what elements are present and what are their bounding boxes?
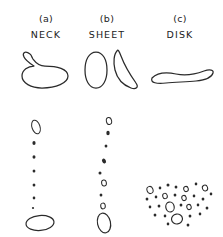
droplet — [175, 186, 178, 189]
column-index-b: (b) — [100, 13, 114, 24]
column-name-neck: NECK — [31, 29, 61, 40]
droplet — [105, 145, 108, 148]
droplet — [33, 155, 36, 158]
droplet — [210, 193, 213, 196]
droplet — [206, 207, 209, 210]
droplet — [158, 205, 161, 208]
droplet — [99, 171, 102, 174]
droplet — [33, 169, 36, 172]
column-name-disk: DISK — [167, 29, 194, 40]
column-index-c: (c) — [173, 13, 187, 24]
droplet — [159, 187, 162, 190]
droplet — [154, 214, 157, 217]
droplet — [197, 204, 200, 207]
column-name-sheet: SHEET — [89, 29, 125, 40]
droplet — [100, 194, 103, 197]
column-index-a: (a) — [39, 13, 53, 24]
droplet — [33, 197, 36, 200]
droplet — [155, 196, 158, 199]
droplet — [202, 198, 205, 201]
droplet — [32, 141, 35, 145]
droplet — [199, 213, 202, 216]
droplet — [33, 184, 36, 187]
droplet — [174, 194, 177, 197]
droplet — [167, 183, 170, 186]
droplet — [164, 215, 167, 218]
droplet — [180, 204, 183, 207]
droplet — [187, 224, 190, 227]
droplet — [149, 206, 152, 209]
droplet — [193, 195, 196, 198]
droplet — [195, 183, 198, 186]
droplet — [106, 131, 109, 135]
droplet — [189, 215, 192, 218]
droplet — [32, 207, 34, 209]
droplet — [146, 198, 149, 201]
breakup-morphology-figure: (a) NECK (b) SHEET (c) DISK — [0, 0, 223, 237]
droplet — [167, 223, 170, 226]
